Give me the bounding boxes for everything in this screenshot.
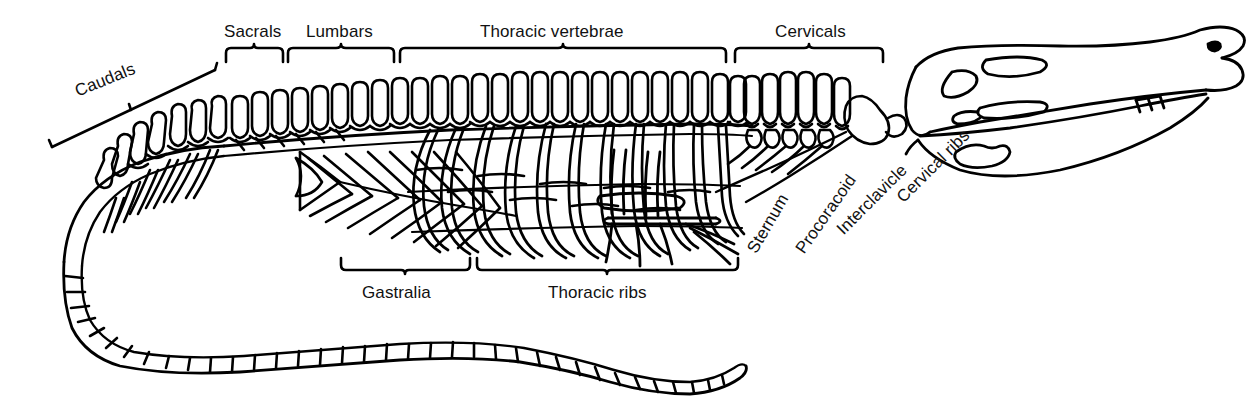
vertebra (350, 82, 370, 130)
vertebra (430, 76, 450, 128)
top-brace-group (226, 44, 883, 62)
vertebra (570, 72, 590, 126)
brace-thoracic-vertebrae (400, 44, 726, 62)
vertebra (470, 74, 490, 126)
vertebra (590, 72, 610, 126)
brace-lumbars (288, 44, 394, 62)
vertebra (670, 72, 690, 126)
vertebra (630, 72, 650, 126)
brace-cervicals (735, 44, 883, 62)
vertebra (290, 88, 310, 136)
label-thoracic-vertebrae: Thoracic vertebrae (480, 22, 624, 42)
caudal-vertebra (208, 96, 228, 142)
thoracic-ribs-group (408, 124, 744, 258)
vertebra (610, 72, 630, 126)
cervical-vertebra (762, 74, 780, 148)
cervical-vertebra (816, 74, 834, 148)
caudal-vertebrae-proximal (64, 96, 228, 266)
vertebra (250, 92, 270, 140)
figure-canvas: Caudals Sacrals Lumbars Thoracic vertebr… (0, 0, 1248, 416)
vertebra (550, 72, 570, 126)
vertebra (330, 84, 350, 132)
vertebra (690, 72, 710, 126)
vertebra (450, 76, 470, 128)
label-sacrals: Sacrals (224, 22, 281, 42)
vertebra (710, 74, 730, 126)
label-gastralia: Gastralia (362, 283, 431, 303)
caudal-vertebra (188, 100, 208, 146)
brace-sacrals (226, 44, 283, 62)
brace-gastralia (341, 258, 470, 274)
label-lumbars: Lumbars (306, 22, 373, 42)
label-cervicals: Cervicals (775, 22, 846, 42)
vertebra (270, 90, 290, 138)
vertebra (650, 72, 670, 126)
vertebra (728, 76, 748, 126)
skeleton-illustration (0, 0, 1248, 416)
bottom-brace-group (341, 258, 738, 274)
cervical-vertebra (798, 72, 816, 148)
vertebra (370, 80, 390, 130)
vertebra (410, 78, 430, 128)
cervical-vertebra (780, 72, 798, 148)
caudal-vertebra (146, 112, 166, 158)
vertebra (490, 74, 510, 126)
vertebra (510, 72, 530, 126)
vertebra (390, 78, 410, 128)
vertebra (230, 96, 250, 142)
distal-tail-group (64, 262, 747, 394)
caudal-vertebra (168, 104, 188, 150)
label-thoracic-ribs: Thoracic ribs (548, 283, 647, 303)
vertebra (310, 86, 330, 134)
vertebra (530, 72, 550, 126)
